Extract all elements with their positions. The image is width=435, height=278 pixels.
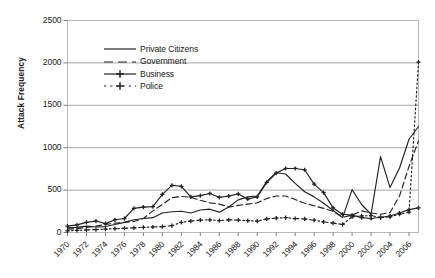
legend-key-private-citizens — [103, 43, 137, 55]
legend-item-private-citizens: Private Citizens — [103, 43, 198, 55]
legend-label-business: Business — [140, 68, 174, 80]
y-axis-tick-0: 0 — [22, 228, 62, 237]
legend-item-business: Business — [103, 68, 198, 80]
legend-item-police: Police — [103, 80, 198, 92]
y-axis-tick-2500: 2500 — [22, 16, 62, 25]
y-axis-tick-2000: 2000 — [22, 58, 62, 67]
y-axis-tick-1000: 1000 — [22, 143, 62, 152]
legend-label-government: Government — [140, 55, 186, 67]
chart-container: Attack Frequency Private Citizens Govern… — [0, 0, 435, 278]
legend-label-private-citizens: Private Citizens — [140, 43, 198, 55]
legend-key-government — [103, 56, 137, 68]
line-chart-plot — [0, 0, 435, 278]
series-line-business — [68, 168, 419, 226]
series-line-private-citizens — [68, 127, 419, 228]
legend-key-police — [103, 80, 137, 92]
y-axis-tick-1500: 1500 — [22, 100, 62, 109]
legend-item-government: Government — [103, 55, 198, 67]
legend-key-business — [103, 68, 137, 80]
y-axis-tick-500: 500 — [22, 185, 62, 194]
legend-label-police: Police — [140, 80, 163, 92]
chart-legend: Private Citizens Government Business Pol… — [103, 43, 198, 93]
